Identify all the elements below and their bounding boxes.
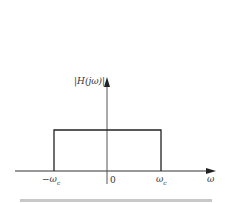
pos-cutoff-label: ωc <box>156 174 167 186</box>
y-axis-label: |H(jω)| <box>74 76 105 86</box>
separator-line <box>20 199 212 202</box>
neg-cutoff-label: −ωc <box>42 174 60 186</box>
filter-diagram: |H(jω)| −ωc 0 ωc ω <box>0 0 230 203</box>
diagram-canvas <box>0 0 230 203</box>
x-axis-label: ω <box>207 174 214 184</box>
origin-label: 0 <box>110 175 116 185</box>
